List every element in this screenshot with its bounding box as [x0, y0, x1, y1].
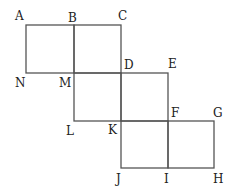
diagram-canvas: A B C N M D E L K F G J I H [0, 0, 236, 195]
label-F: F [171, 106, 179, 120]
label-H: H [213, 172, 223, 186]
label-L: L [66, 124, 74, 138]
label-N: N [15, 76, 26, 90]
square-KFIJ [121, 121, 168, 168]
square-DEFK [121, 73, 168, 121]
label-D: D [124, 58, 134, 72]
square-BCDM [74, 25, 121, 73]
label-I: I [164, 172, 169, 186]
square-FGHI [168, 121, 214, 168]
label-G: G [213, 106, 223, 120]
square-MDKL [74, 73, 121, 121]
label-E: E [168, 57, 177, 71]
label-J: J [114, 172, 121, 186]
label-M: M [59, 76, 71, 90]
label-A: A [14, 9, 24, 23]
label-C: C [118, 9, 127, 23]
label-K: K [108, 123, 118, 137]
label-B: B [68, 11, 77, 25]
square-ABMN [26, 25, 74, 73]
